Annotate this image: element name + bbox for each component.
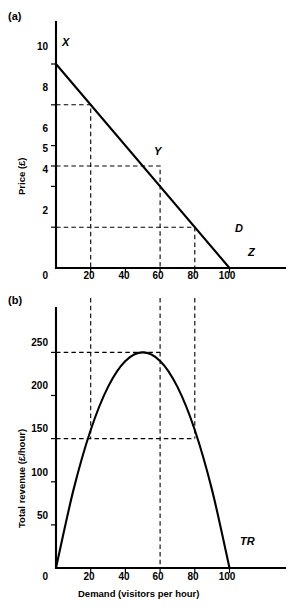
guide-p8-q20 — [56, 105, 91, 268]
panel-a-plot — [0, 0, 291, 300]
guide-p2-q80 — [56, 227, 195, 268]
panel-a-demand-curve: (a) Price (£) 10 8 6 5 4 2 0 20 40 60 80… — [0, 0, 291, 300]
guide-p5-q50 — [56, 166, 160, 268]
panel-b-total-revenue: (b) Total revenue (£/hour) Demand (visit… — [0, 280, 291, 615]
economics-figure: (a) Price (£) 10 8 6 5 4 2 0 20 40 60 80… — [0, 0, 291, 615]
total-revenue-curve-tr — [56, 352, 230, 568]
panel-b-plot — [0, 280, 291, 615]
